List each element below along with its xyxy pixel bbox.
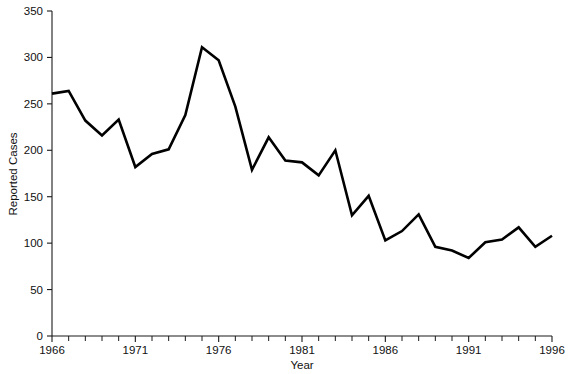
- x-tick-label: 1991: [456, 344, 482, 356]
- line-chart: 050100150200250300350 196619711976198119…: [0, 0, 574, 374]
- x-tick-label: 1971: [123, 344, 149, 356]
- y-tick-label: 350: [24, 5, 43, 17]
- x-axis-title: Year: [290, 359, 313, 371]
- y-tick-label: 300: [24, 51, 43, 63]
- y-tick-label: 150: [24, 191, 43, 203]
- x-axis: 1966197119761981198619911996: [39, 336, 565, 356]
- chart-canvas: 050100150200250300350 196619711976198119…: [0, 0, 574, 374]
- y-tick-label: 0: [37, 330, 43, 342]
- x-tick-label: 1981: [289, 344, 315, 356]
- series-reported-cases: [52, 47, 552, 258]
- y-tick-label: 200: [24, 144, 43, 156]
- x-tick-label: 1976: [206, 344, 232, 356]
- data-series: [52, 47, 552, 258]
- y-axis: 050100150200250300350: [24, 5, 52, 342]
- y-tick-label: 50: [30, 284, 43, 296]
- x-tick-label: 1966: [39, 344, 65, 356]
- y-tick-label: 100: [24, 237, 43, 249]
- y-axis-title: Reported Cases: [7, 132, 19, 215]
- y-tick-label: 250: [24, 98, 43, 110]
- x-tick-label: 1996: [539, 344, 565, 356]
- x-tick-label: 1986: [373, 344, 399, 356]
